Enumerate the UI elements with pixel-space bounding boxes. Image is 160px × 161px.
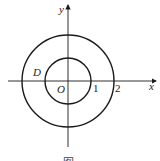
diagram-canvas: y x O 1 2 D 图	[0, 0, 160, 161]
tick-label-2: 2	[115, 82, 121, 94]
y-axis-label: y	[58, 3, 64, 15]
region-d-label: D	[32, 66, 41, 78]
figure-caption: 图	[63, 157, 74, 161]
origin-label: O	[57, 83, 65, 95]
x-axis-label: x	[148, 80, 154, 92]
tick-label-1: 1	[93, 82, 99, 94]
